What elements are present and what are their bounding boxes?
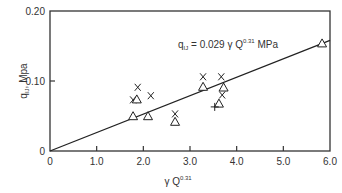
data-point-triangle <box>199 82 208 90</box>
data-point-cross <box>148 92 154 99</box>
fit-equation-annotation: qIJ = 0.029 γ Q0.31 MPa <box>178 38 278 51</box>
x-tick-label: 6.0 <box>323 156 337 167</box>
axis-ticks <box>50 81 283 151</box>
x-tick-label: 5.0 <box>276 156 290 167</box>
y-axis-label: qIJ, Mpa <box>18 63 30 99</box>
scatter-chart: 01.02.03.04.05.06.000.100.20 qIJ, Mpa γ … <box>0 0 342 193</box>
x-tick-label: 4.0 <box>230 156 244 167</box>
plot-frame <box>50 11 330 151</box>
data-points <box>129 39 327 125</box>
x-tick-label: 0 <box>47 156 53 167</box>
data-point-cross <box>200 73 206 80</box>
y-tick-label: 0 <box>39 146 45 157</box>
data-point-triangle <box>214 99 223 107</box>
x-tick-label: 3.0 <box>183 156 197 167</box>
x-axis-label: γ Q0.31 <box>164 175 192 187</box>
x-tick-label: 2.0 <box>136 156 150 167</box>
y-tick-label: 0.20 <box>26 6 46 17</box>
x-tick-label: 1.0 <box>90 156 104 167</box>
data-point-triangle <box>129 112 138 120</box>
data-point-triangle <box>171 117 180 125</box>
data-point-cross <box>219 92 225 99</box>
data-point-cross <box>218 73 224 80</box>
data-point-cross <box>135 84 141 91</box>
fit-line <box>50 40 330 151</box>
